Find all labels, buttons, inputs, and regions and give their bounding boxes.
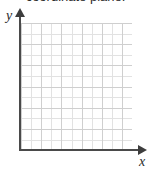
x-axis [19, 149, 140, 151]
grid-lines [21, 23, 132, 150]
arrow-up-icon [15, 8, 25, 17]
x-axis-label: x [139, 155, 145, 169]
y-axis-label: y [6, 9, 12, 23]
plot-area: y x [0, 0, 151, 172]
y-axis [19, 14, 21, 151]
coordinate-plane-figure: coordinate plane. y x [0, 0, 151, 172]
